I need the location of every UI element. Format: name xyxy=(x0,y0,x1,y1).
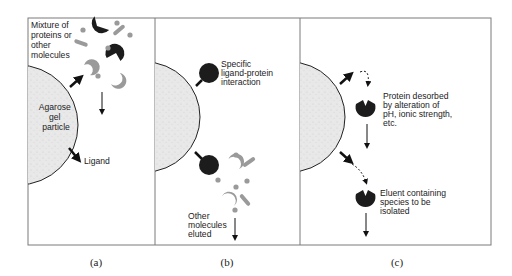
small-molecule-icon xyxy=(127,32,132,37)
panel-b-caption: (b) xyxy=(221,256,234,269)
rod-molecule-icon xyxy=(242,156,256,167)
unbound-molecules xyxy=(215,151,255,213)
small-molecule-icon xyxy=(244,178,249,183)
other-molecule-icon xyxy=(110,72,129,92)
interaction-label: Specific ligand-protein interaction xyxy=(221,59,275,87)
target-protein-icon xyxy=(103,41,127,63)
outer-frame xyxy=(28,18,491,245)
bead-label-line: Agarose xyxy=(39,102,71,112)
affinity-chromatography-figure: Mixture of proteins or other molecules A… xyxy=(0,0,512,276)
ligand-arrow-upper xyxy=(70,78,80,87)
rod-molecule-icon xyxy=(112,24,125,36)
frame xyxy=(28,18,491,245)
bound-protein-icon xyxy=(199,155,219,175)
rod-molecule-icon xyxy=(239,193,251,206)
small-molecule-icon xyxy=(105,45,110,50)
panel-a: Mixture of proteins or other molecules A… xyxy=(0,13,133,269)
small-molecule-icon xyxy=(233,184,238,189)
ligand-label: Ligand xyxy=(84,156,110,166)
mixture-label-line: other xyxy=(31,40,51,50)
small-molecule-icon xyxy=(233,152,238,157)
panel-c-caption: (c) xyxy=(391,256,404,269)
molecule-mixture xyxy=(74,13,133,92)
ligand-stalk xyxy=(196,80,202,86)
other-molecule-icon xyxy=(84,59,100,75)
ligand-arrow-upper xyxy=(340,75,350,84)
small-molecule-icon xyxy=(114,20,119,25)
panel-c: Protein desorbed by alteration of pH, io… xyxy=(235,62,455,269)
ligand-arrow-lower xyxy=(340,152,350,161)
small-molecule-icon xyxy=(215,177,220,182)
eluted-label: Other molecules eluted xyxy=(188,211,229,239)
small-molecule-icon xyxy=(232,207,237,212)
bound-protein-icon xyxy=(199,63,219,83)
desorption-dashed-arrow xyxy=(360,71,368,84)
other-molecule-icon xyxy=(222,192,237,206)
mixture-label-line: molecules xyxy=(31,50,70,60)
panel-a-caption: (a) xyxy=(90,256,103,269)
mixture-label-line: proteins or xyxy=(31,30,72,40)
desorbed-label-line: etc. xyxy=(383,118,397,128)
small-molecule-icon xyxy=(95,73,100,78)
rod-molecule-icon xyxy=(74,39,89,48)
eluted-protein-icon xyxy=(355,190,375,207)
small-molecule-icon xyxy=(80,27,85,32)
desorbed-label: Protein desorbed by alteration of pH, io… xyxy=(383,91,455,128)
bead-label-line: particle xyxy=(42,122,70,132)
mixture-label: Mixture of proteins or other molecules xyxy=(31,20,74,60)
mixture-label-line: Mixture of xyxy=(31,20,69,30)
eluent-label-line: isolated xyxy=(380,206,410,216)
elution-dashed-arrow xyxy=(352,164,366,182)
interaction-label-line: interaction xyxy=(221,77,261,87)
target-protein-icon xyxy=(89,13,109,36)
bead-label-line: gel xyxy=(49,112,61,122)
eluent-label: Eluent containing species to be isolated xyxy=(380,188,448,216)
panel-b: Specific ligand-protein interaction Othe… xyxy=(90,59,275,269)
desorbed-protein-icon xyxy=(356,100,376,117)
eluted-label-line: eluted xyxy=(188,229,212,239)
